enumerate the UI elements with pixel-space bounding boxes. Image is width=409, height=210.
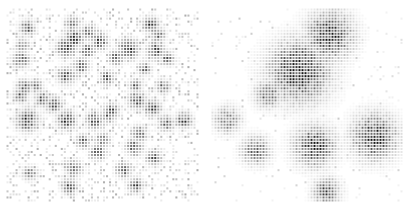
left-panel-dot-matrix xyxy=(0,0,205,210)
right-panel xyxy=(205,0,409,210)
right-panel-dot-matrix xyxy=(205,0,409,210)
left-panel xyxy=(0,0,205,210)
dot-density-figure xyxy=(0,0,409,210)
